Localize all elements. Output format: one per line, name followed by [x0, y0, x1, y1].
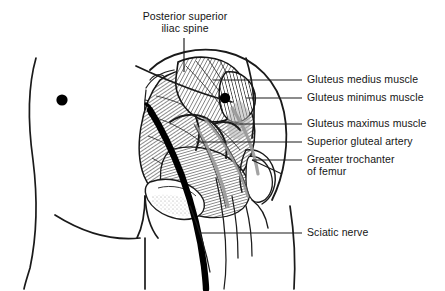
injection-landmark-dot	[56, 94, 67, 105]
anatomy-figure: Posterior superior iliac spine Gluteus m…	[0, 0, 445, 291]
medius-landmark-dot	[220, 93, 230, 103]
anatomy-illustration	[0, 0, 445, 291]
gluteal-cleft	[137, 196, 158, 289]
